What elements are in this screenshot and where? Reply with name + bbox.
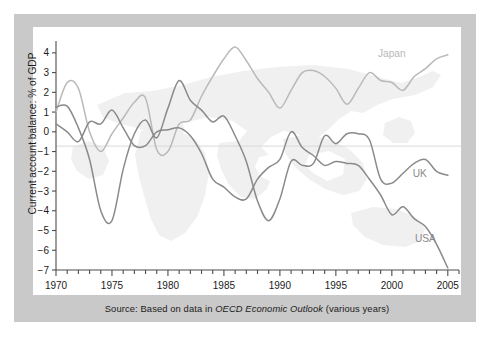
y-tick-label: −2	[38, 166, 50, 177]
y-tick-label: −7	[38, 265, 50, 276]
series-label-japan: Japan	[378, 48, 406, 59]
y-tick-label: −3	[38, 186, 50, 197]
x-tick-label: 1990	[269, 280, 292, 291]
x-tick-label: 1985	[213, 280, 236, 291]
x-tick-label: 2000	[381, 280, 404, 291]
y-tick-label: −1	[38, 146, 50, 157]
series-label-uk: UK	[413, 168, 427, 179]
y-tick-label: −5	[38, 225, 50, 236]
figure-container: 43210−1−2−3−4−5−6−7 19701975198019851990…	[0, 0, 490, 342]
x-tick-label: 2005	[437, 280, 460, 291]
y-tick-label: 3	[43, 67, 49, 78]
source-suffix: (various years)	[323, 303, 389, 314]
x-tick-label: 1995	[325, 280, 348, 291]
y-tick-label: −6	[38, 245, 50, 256]
y-axis-label: Current account balance: % of GDP	[27, 29, 38, 239]
x-tick-label: 1980	[157, 280, 180, 291]
y-axis-ticks: 43210−1−2−3−4−5−6−7	[38, 47, 56, 275]
y-tick-label: 0	[43, 126, 49, 137]
y-tick-label: −4	[38, 205, 50, 216]
source-publication: OECD Economic Outlook	[215, 303, 323, 314]
x-axis-ticks: 19701975198019851990199520002005	[45, 270, 459, 291]
y-tick-label: 4	[43, 47, 49, 58]
x-tick-label: 1970	[45, 280, 68, 291]
series-label-usa: USA	[415, 233, 436, 244]
y-tick-label: 2	[43, 87, 49, 98]
source-prefix: Source: Based on data in	[105, 303, 215, 314]
source-note: Source: Based on data in OECD Economic O…	[33, 297, 461, 319]
x-tick-label: 1975	[101, 280, 124, 291]
line-chart: 43210−1−2−3−4−5−6−7 19701975198019851990…	[33, 27, 461, 295]
y-tick-label: 1	[43, 107, 49, 118]
